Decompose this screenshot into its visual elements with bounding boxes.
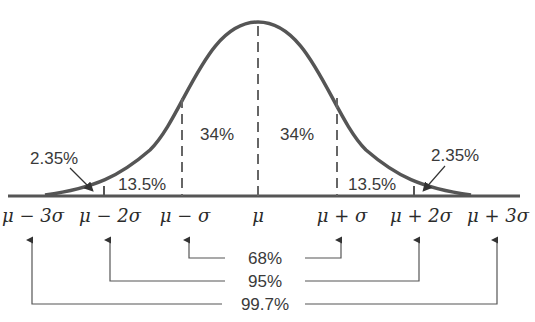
- region-label-left-1sigma: 34%: [200, 125, 234, 144]
- interval-label-68: 68%: [248, 249, 282, 268]
- axis-label-mu-minus-sigma: μ − σ: [160, 205, 211, 226]
- interval-95-right-connector: [305, 240, 419, 281]
- interval-997-left-connector: [32, 240, 222, 304]
- interval-997-right-connector: [305, 240, 497, 304]
- interval-95-left-connector: [110, 240, 225, 281]
- axis-label-mu-plus-sigma: μ + σ: [317, 205, 368, 226]
- normal-distribution-diagram: 2.35% 13.5% 34% 34% 13.5% 2.35% μ − 3σ μ…: [0, 0, 535, 322]
- interval-68-right-connector: [305, 240, 341, 258]
- region-label-left-tail: 2.35%: [30, 149, 78, 168]
- axis-label-mu-plus-3sigma: μ + 3σ: [467, 205, 530, 226]
- axis-label-mu-plus-2sigma: μ + 2σ: [390, 205, 453, 226]
- axis-label-mu: μ: [252, 205, 264, 226]
- region-label-right-1sigma: 34%: [280, 125, 314, 144]
- axis-label-mu-minus-3sigma: μ − 3σ: [2, 205, 65, 226]
- interval-label-95: 95%: [248, 272, 282, 291]
- region-label-right-2sigma: 13.5%: [348, 175, 396, 194]
- interval-label-99-7: 99.7%: [241, 295, 289, 314]
- region-label-left-2sigma: 13.5%: [118, 175, 166, 194]
- interval-68-left-connector: [189, 240, 225, 258]
- axis-label-mu-minus-2sigma: μ − 2σ: [79, 205, 142, 226]
- region-label-right-tail: 2.35%: [431, 146, 479, 165]
